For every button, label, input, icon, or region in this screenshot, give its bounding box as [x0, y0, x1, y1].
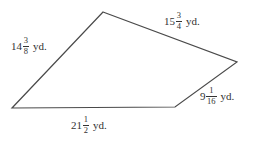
left-unit: yd. [33, 41, 47, 52]
bottom-unit: yd. [93, 120, 107, 131]
top-numerator: 3 [176, 11, 182, 21]
left-denominator: 8 [23, 46, 29, 57]
side-length-label-bottom: 21 1 2 yd. [71, 115, 107, 135]
left-fraction: 3 8 [23, 36, 29, 56]
left-numerator: 3 [23, 36, 29, 46]
bottom-denominator: 2 [83, 125, 89, 136]
right-fraction: 1 16 [206, 86, 217, 106]
left-whole-number: 14 [11, 41, 22, 52]
geometry-figure: 14 3 8 yd. 15 3 4 yd. 9 1 16 yd. 21 1 2 … [0, 0, 259, 143]
side-length-label-left: 14 3 8 yd. [11, 36, 47, 56]
top-unit: yd. [186, 16, 200, 27]
top-fraction: 3 4 [176, 11, 182, 31]
right-denominator: 16 [206, 96, 217, 107]
side-length-label-top: 15 3 4 yd. [164, 11, 200, 31]
quadrilateral-shape [0, 0, 259, 143]
top-denominator: 4 [176, 21, 182, 32]
top-whole-number: 15 [164, 16, 175, 27]
bottom-fraction: 1 2 [83, 115, 89, 135]
bottom-numerator: 1 [83, 115, 89, 125]
right-numerator: 1 [208, 86, 214, 96]
right-unit: yd. [221, 91, 235, 102]
side-length-label-right: 9 1 16 yd. [200, 86, 234, 106]
bottom-whole-number: 21 [71, 120, 82, 131]
right-whole-number: 9 [200, 91, 206, 102]
